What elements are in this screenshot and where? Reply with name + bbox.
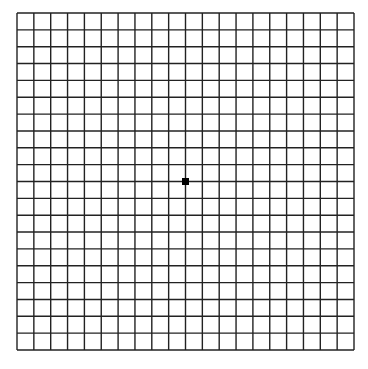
fixation-dot xyxy=(182,178,189,185)
amsler-grid xyxy=(0,0,368,369)
